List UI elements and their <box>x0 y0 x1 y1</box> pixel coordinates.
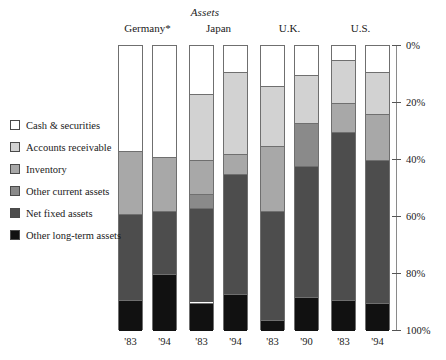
legend-swatch-icon <box>10 120 20 130</box>
bar-segment <box>119 46 142 151</box>
legend-item-label: Inventory <box>26 164 67 175</box>
legend-item: Cash & securities <box>10 114 118 136</box>
legend-swatch-icon <box>10 208 20 218</box>
bar-segment <box>261 46 284 86</box>
bar-segment <box>119 300 142 331</box>
bar-segment <box>261 211 284 319</box>
stacked-bar <box>223 45 248 330</box>
x-axis-labels: '83'94'83'94'83'90'83'94 <box>118 336 386 352</box>
legend-swatch-icon <box>10 164 20 174</box>
y-axis-tick <box>392 216 401 217</box>
bar-segment <box>332 103 355 132</box>
bar-column <box>294 45 319 330</box>
bar-segment <box>224 174 247 294</box>
bar-column <box>223 45 248 330</box>
y-axis-tick <box>392 102 401 103</box>
bar-column <box>365 45 390 330</box>
stacked-bar <box>331 45 356 330</box>
x-axis-tick-label: '83 <box>189 336 214 347</box>
legend-item-label: Other long-term assets <box>26 230 121 241</box>
legend-item: Accounts receivable <box>10 136 118 158</box>
bar-segment <box>366 303 389 332</box>
legend-item-label: Accounts receivable <box>26 142 111 153</box>
y-axis: 0%20%40%60%80%100% <box>396 45 446 330</box>
y-axis-tick-label: 60% <box>406 211 425 222</box>
bar-segment <box>295 166 318 297</box>
bar-segment <box>261 146 284 212</box>
legend-item-label: Other current assets <box>26 186 109 197</box>
legend-item-label: Net fixed assets <box>26 208 92 219</box>
bar-column <box>118 45 143 330</box>
stacked-bar <box>152 45 177 330</box>
group-header: Germany* <box>118 22 177 34</box>
bar-segment <box>366 46 389 72</box>
bar-segment <box>261 320 284 331</box>
stacked-bar <box>118 45 143 330</box>
legend-swatch-icon <box>10 142 20 152</box>
stacked-bar <box>294 45 319 330</box>
chart-legend: Cash & securitiesAccounts receivableInve… <box>10 114 118 246</box>
y-axis-tick <box>392 159 401 160</box>
x-axis-tick-label: '83 <box>331 336 356 347</box>
y-axis-tick-label: 20% <box>406 97 425 108</box>
bar-segment <box>261 86 284 146</box>
bar-segment <box>190 46 213 94</box>
bar-segment <box>119 214 142 300</box>
bar-segment <box>153 211 176 274</box>
bar-segment <box>366 160 389 303</box>
group-header: U.S. <box>331 22 390 34</box>
x-axis-tick-label: '94 <box>365 336 390 347</box>
legend-swatch-icon <box>10 230 20 240</box>
bar-segment <box>295 75 318 123</box>
y-axis-tick-label: 80% <box>406 268 425 279</box>
bar-segment <box>153 274 176 331</box>
bar-column <box>260 45 285 330</box>
bar-column <box>331 45 356 330</box>
bar-segment <box>295 46 318 75</box>
stacked-bar <box>260 45 285 330</box>
x-axis-tick-label: '94 <box>223 336 248 347</box>
bar-segment <box>190 160 213 194</box>
y-axis-tick-label: 40% <box>406 154 425 165</box>
bar-column <box>189 45 214 330</box>
bar-segment <box>153 157 176 211</box>
legend-item: Net fixed assets <box>10 202 118 224</box>
chart-title: Assets <box>0 6 428 18</box>
x-axis-tick-label: '94 <box>152 336 177 347</box>
legend-item: Other current assets <box>10 180 118 202</box>
legend-swatch-icon <box>10 186 20 196</box>
bar-segment <box>224 72 247 155</box>
bar-segment <box>332 300 355 331</box>
group-header-row: Germany*JapanU.K.U.S. <box>118 22 386 38</box>
legend-item: Inventory <box>10 158 118 180</box>
bar-segment <box>295 297 318 331</box>
group-header: U.K. <box>260 22 319 34</box>
bar-segment <box>332 60 355 103</box>
legend-item-label: Cash & securities <box>26 120 100 131</box>
stacked-bar <box>365 45 390 330</box>
group-header: Japan <box>189 22 248 34</box>
y-axis-tick-label: 100% <box>406 325 431 336</box>
bar-segment <box>190 208 213 302</box>
y-axis-tick <box>392 273 401 274</box>
y-axis-tick <box>392 45 401 46</box>
x-axis-tick-label: '83 <box>118 336 143 347</box>
bar-segment <box>224 294 247 331</box>
bar-segment <box>332 132 355 300</box>
bar-segment <box>190 94 213 160</box>
bar-segment <box>332 46 355 60</box>
bar-segment <box>190 303 213 332</box>
bar-segment <box>224 46 247 72</box>
stacked-bar <box>189 45 214 330</box>
bar-segment <box>295 123 318 166</box>
bar-segment <box>366 114 389 160</box>
plot-area <box>118 45 386 330</box>
bar-segment <box>153 46 176 157</box>
y-axis-line <box>396 45 397 330</box>
x-axis-tick-label: '83 <box>260 336 285 347</box>
bar-segment <box>119 151 142 214</box>
bar-column <box>152 45 177 330</box>
bar-segment <box>366 72 389 115</box>
assets-stacked-bar-chart: Assets Germany*JapanU.K.U.S. '83'94'83'9… <box>0 0 446 360</box>
bar-segment <box>224 154 247 174</box>
